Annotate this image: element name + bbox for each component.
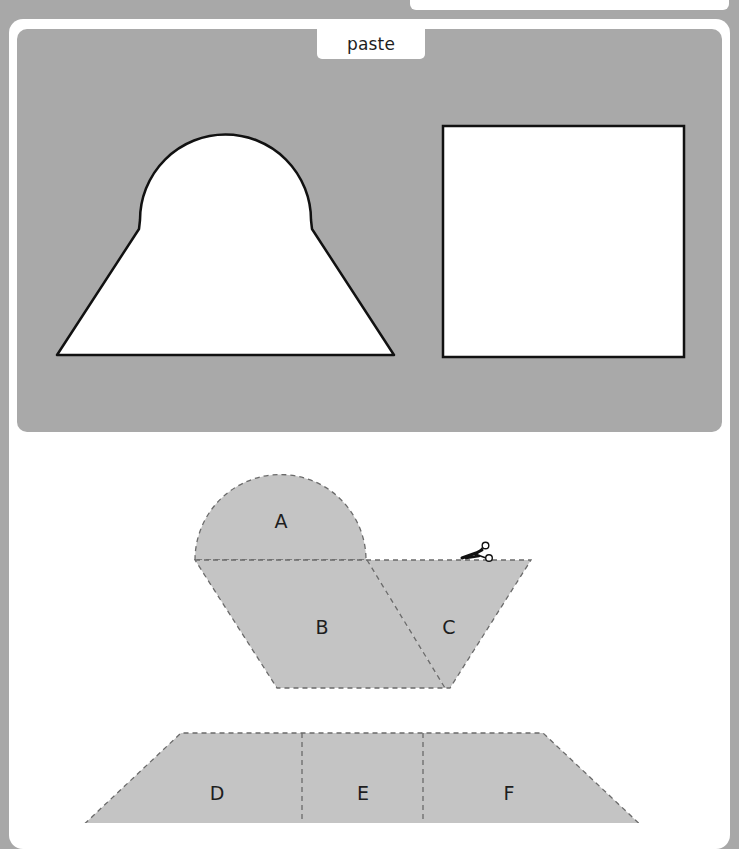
piece-label-b: B — [315, 616, 328, 638]
scissors-icon — [462, 542, 492, 561]
arch-trapezoid-outline[interactable] — [57, 135, 394, 356]
lower-cut-group: D E F — [78, 733, 646, 823]
piece-label-e: E — [357, 782, 369, 804]
piece-label-f: F — [504, 782, 515, 804]
piece-e[interactable] — [302, 733, 423, 823]
piece-label-d: D — [210, 782, 225, 804]
piece-f[interactable] — [423, 733, 646, 823]
upper-cut-group: A B C — [195, 475, 531, 688]
square-outline[interactable] — [443, 126, 684, 357]
piece-label-c: C — [442, 616, 455, 638]
piece-label-a: A — [275, 510, 288, 532]
piece-d[interactable] — [78, 733, 302, 823]
